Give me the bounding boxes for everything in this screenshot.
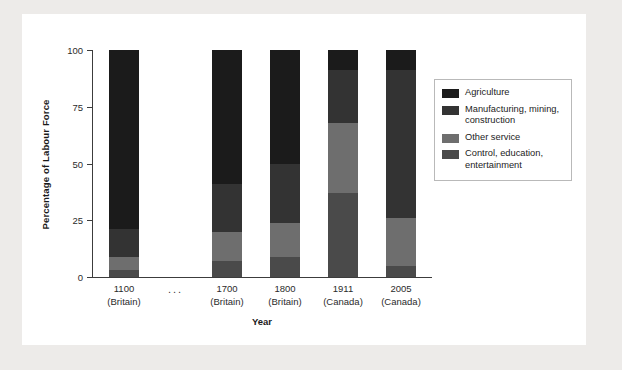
- x-tick-label: 1100(Britain): [107, 283, 140, 308]
- y-tick-label: 100: [67, 45, 83, 56]
- bar-segment: [328, 70, 358, 122]
- legend-label: Control, education, entertainment: [465, 148, 565, 171]
- y-tick-label: 25: [72, 215, 83, 226]
- legend-item: Agriculture: [442, 87, 565, 99]
- x-tick-label: 1800(Britain): [268, 283, 301, 308]
- bar-segment: [109, 270, 139, 277]
- x-tick-label-year: 1800: [268, 283, 301, 296]
- x-tick-label-place: (Canada): [381, 296, 421, 309]
- x-tick-label-year: 1700: [210, 283, 243, 296]
- stacked-bar: [386, 50, 416, 277]
- stacked-bar: [270, 50, 300, 277]
- x-tick-label: 2005(Canada): [381, 283, 421, 308]
- bar-segment: [109, 229, 139, 256]
- bar-segment: [212, 184, 242, 232]
- stacked-bar: [212, 50, 242, 277]
- y-tick-mark: [87, 107, 92, 108]
- y-tick-mark: [87, 220, 92, 221]
- bar-segment: [270, 50, 300, 164]
- legend: AgricultureManufacturing, mining, constr…: [434, 79, 572, 181]
- x-axis-title: Year: [92, 316, 432, 327]
- legend-item: Control, education, entertainment: [442, 148, 565, 171]
- x-axis-break-ellipsis: ...: [168, 283, 183, 295]
- bar-segment: [212, 261, 242, 277]
- x-tick-label-place: (Britain): [210, 296, 243, 309]
- bar-segment: [386, 70, 416, 218]
- y-tick-label: 75: [72, 101, 83, 112]
- x-tick-label-year: 2005: [381, 283, 421, 296]
- bar-segment: [109, 50, 139, 229]
- legend-swatch: [442, 150, 459, 159]
- stacked-bar: [328, 50, 358, 277]
- bar-segment: [328, 123, 358, 193]
- stacked-bar-chart: Percentage of Labour Force 0255075100 11…: [0, 0, 622, 370]
- legend-swatch: [442, 106, 459, 115]
- x-tick-label: 1700(Britain): [210, 283, 243, 308]
- legend-label: Agriculture: [465, 87, 509, 99]
- bar-segment: [109, 257, 139, 271]
- x-tick-label-place: (Britain): [268, 296, 301, 309]
- x-tick-label: 1911(Canada): [323, 283, 363, 308]
- legend-label: Other service: [465, 132, 520, 144]
- y-tick-mark: [87, 277, 92, 278]
- legend-item: Manufacturing, mining, construction: [442, 104, 565, 127]
- bar-segment: [386, 266, 416, 277]
- y-tick-mark: [87, 50, 92, 51]
- bar-segment: [270, 223, 300, 257]
- y-tick-label: 50: [72, 158, 83, 169]
- bar-segment: [270, 257, 300, 277]
- bar-segment: [328, 193, 358, 277]
- legend-label: Manufacturing, mining, construction: [465, 104, 565, 127]
- bar-segment: [386, 218, 416, 266]
- legend-item: Other service: [442, 132, 565, 144]
- y-axis-line: [92, 50, 93, 277]
- legend-swatch: [442, 134, 459, 143]
- bar-segment: [212, 232, 242, 262]
- y-tick-mark: [87, 164, 92, 165]
- chart-screenshot: Percentage of Labour Force 0255075100 11…: [0, 0, 622, 370]
- x-tick-label-year: 1911: [323, 283, 363, 296]
- plot-area: 0255075100: [92, 50, 432, 277]
- y-axis-title-text: Percentage of Labour Force: [40, 99, 51, 229]
- y-tick-label: 0: [78, 272, 83, 283]
- y-axis-title: Percentage of Labour Force: [34, 48, 56, 280]
- bar-segment: [328, 50, 358, 70]
- legend-swatch: [442, 89, 459, 98]
- bar-segment: [386, 50, 416, 70]
- x-axis-line: [92, 277, 432, 278]
- stacked-bar: [109, 50, 139, 277]
- x-tick-label-year: 1100: [107, 283, 140, 296]
- bar-segment: [212, 50, 242, 184]
- x-tick-label-place: (Britain): [107, 296, 140, 309]
- x-tick-label-place: (Canada): [323, 296, 363, 309]
- bar-segment: [270, 164, 300, 223]
